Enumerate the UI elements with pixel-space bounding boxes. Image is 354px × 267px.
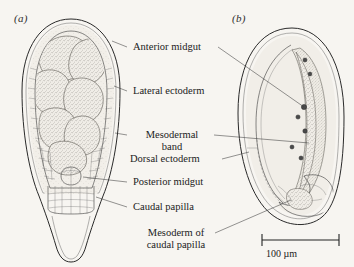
scale-bar-label: 100 µm [266, 248, 297, 259]
embryo-a-caudal-papilla-tail [52, 216, 90, 259]
embryo-a-caudal-papilla-cells [48, 186, 94, 214]
panel-label-b: (b) [232, 12, 246, 24]
scale-bar [262, 234, 339, 246]
leader-mesodermal-band-left [115, 133, 127, 135]
label-dorsal-ectoderm: Dorsal ectoderm [130, 153, 200, 166]
leader-dorsal-ectoderm [222, 152, 249, 159]
label-mesodermal-band-line2: band [133, 141, 211, 154]
figure-container: (a) (b) Anterior midgut Lateral ectoderm… [0, 0, 354, 267]
label-posterior-midgut: Posterior midgut [133, 176, 203, 189]
panel-a-drawing [22, 19, 120, 262]
label-anterior-midgut: Anterior midgut [133, 41, 201, 54]
label-caudal-papilla: Caudal papilla [133, 201, 194, 214]
leader-anterior-midgut-left [112, 41, 127, 47]
leader-mesoderm-caudal-papilla [215, 200, 291, 233]
label-mesoderm-caudal-papilla-line1: Mesoderm of [138, 227, 214, 240]
label-mesodermal-band-line1: Mesodermal [133, 129, 211, 142]
panel-b-drawing [238, 28, 344, 225]
label-lateral-ectoderm: Lateral ectoderm [133, 85, 204, 98]
panel-label-a: (a) [14, 12, 28, 24]
label-mesoderm-caudal-papilla-line2: caudal papilla [138, 239, 214, 252]
